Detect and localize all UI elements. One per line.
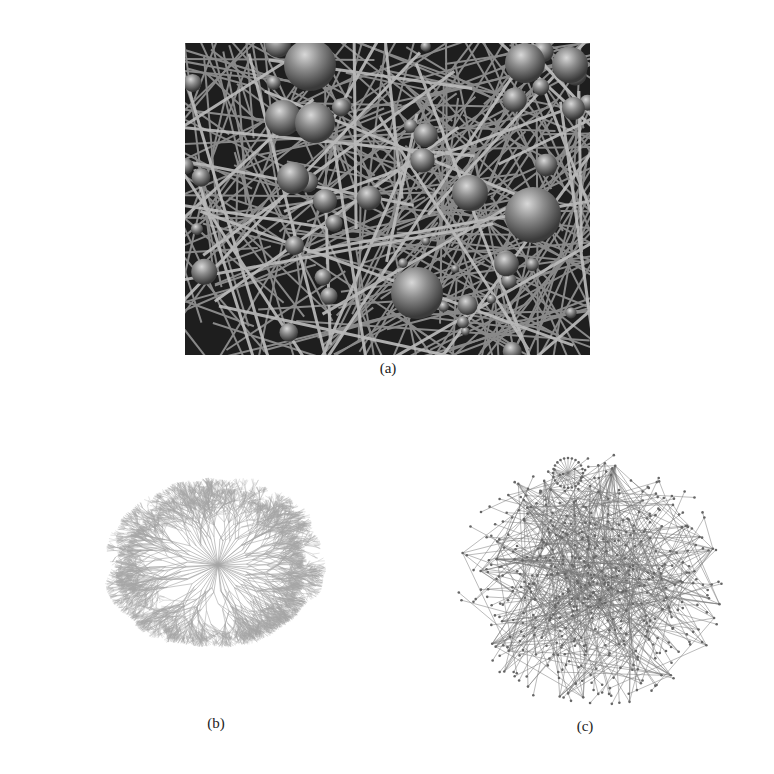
network-graph-image: [450, 430, 735, 715]
panel-c-node-link-graph: [450, 430, 735, 715]
caption-c: (c): [555, 718, 615, 735]
caption-b: (b): [186, 715, 246, 732]
panel-a-3d-network-render: [185, 43, 590, 355]
radial-tree-image: [38, 425, 403, 710]
caption-a: (a): [358, 360, 418, 377]
panel-b-radial-tree: [38, 425, 403, 710]
sphere-rod-network-image: [185, 43, 590, 355]
